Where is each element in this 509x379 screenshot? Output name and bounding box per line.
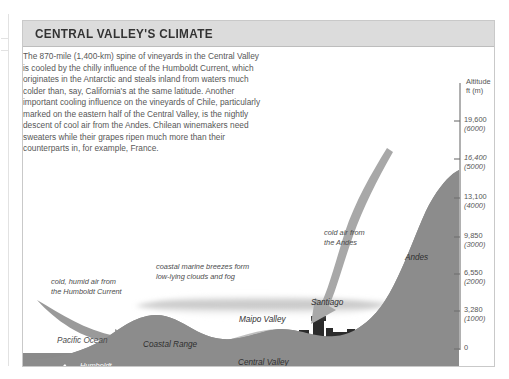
annotation-humboldt-air-line1: cold, humid air from: [51, 277, 122, 287]
label-maipo-valley: Maipo Valley: [239, 315, 286, 325]
label-pacific-ocean: Pacific Ocean: [57, 336, 108, 346]
axis-tick-label: 16,400 (5000): [464, 153, 487, 172]
panel-title: CENTRAL VALLEY'S CLIMATE: [35, 27, 213, 41]
label-coastal-range: Coastal Range: [143, 340, 197, 350]
description-paragraph: The 870-mile (1,400-km) spine of vineyar…: [23, 51, 261, 155]
climate-panel: CENTRAL VALLEY'S CLIMATE: [22, 20, 495, 367]
axis-title-line2: ft (m): [466, 86, 491, 95]
axis-title-line1: Altitude: [466, 77, 491, 86]
label-humboldt-current-line1: Humboldt: [80, 361, 112, 367]
axis-tick-label: 19,600 (6000): [464, 115, 487, 134]
label-andes: Andes: [405, 253, 428, 263]
axis-tick-ft: 0: [464, 343, 468, 352]
axis-tick-label: 9,850 (3000): [464, 231, 485, 250]
axis-tick-m: (3000): [464, 240, 485, 249]
axis-tick-ft: 13,100: [464, 192, 487, 201]
annotation-andes-air: cold air from the Andes: [324, 228, 365, 248]
infographic-root: CENTRAL VALLEY'S CLIMATE: [0, 0, 509, 379]
axis-tick-ft: 6,550: [464, 268, 485, 277]
axis-tick-label: 6,550 (2000): [464, 268, 485, 287]
page-guide-line: [8, 14, 9, 366]
annotation-humboldt-air: cold, humid air from the Humboldt Curren…: [51, 277, 122, 297]
axis-tick-label: 13,100 (4000): [464, 192, 487, 211]
axis-tick-m: (2000): [464, 277, 485, 286]
page-guide-tick: [1, 38, 8, 39]
axis-tick-label: 3,280 (1000): [464, 305, 485, 324]
panel-header: CENTRAL VALLEY'S CLIMATE: [23, 21, 495, 47]
axis-tick-ft: 9,850: [464, 231, 485, 240]
axis-tick-m: (5000): [464, 162, 487, 171]
axis-tick-m: (4000): [464, 201, 487, 210]
axis-tick-m: (6000): [464, 124, 487, 133]
description-text: The 870-mile (1,400-km) spine of vineyar…: [23, 51, 267, 155]
axis-tick-ft: 19,600: [464, 115, 487, 124]
axis-tick-label: 0: [464, 343, 468, 352]
annotation-andes-air-line1: cold air from: [324, 228, 365, 238]
label-humboldt-current: Humboldt Current: [80, 361, 112, 367]
annotation-humboldt-air-line2: the Humboldt Current: [51, 287, 122, 297]
annotation-marine-breezes-line2: low-lying clouds and fog: [156, 272, 249, 282]
axis-tick-m: (1000): [464, 314, 485, 323]
label-santiago: Santiago: [311, 298, 343, 308]
annotation-marine-breezes: coastal marine breezes form low-lying cl…: [156, 262, 249, 282]
page-guide-tick: [1, 50, 8, 51]
label-central-valley: Central Valley: [238, 358, 289, 367]
annotation-andes-air-line2: the Andes: [324, 238, 365, 248]
axis-tick-ft: 3,280: [464, 305, 485, 314]
annotation-marine-breezes-line1: coastal marine breezes form: [156, 262, 249, 272]
axis-title: Altitude ft (m): [466, 77, 491, 96]
axis-tick-ft: 16,400: [464, 153, 487, 162]
